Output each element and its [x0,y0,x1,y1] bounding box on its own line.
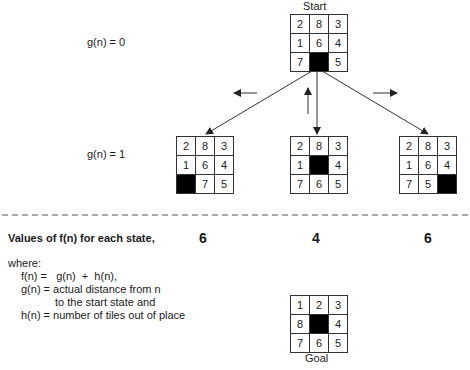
g0-label: g(n) = 0 [87,36,125,48]
tile: 5 [329,53,347,71]
tile: 2 [310,296,328,314]
tile: 3 [329,15,347,33]
tile: 5 [329,175,347,193]
where-g-def-cont: to the start state and [55,296,155,308]
blank-tile [438,175,456,193]
blank-tile [310,156,328,174]
tile: 1 [291,34,309,52]
tile: 8 [310,137,328,155]
where-g-def: g(n) = actual distance from n [21,283,161,295]
blank-tile [310,53,328,71]
tile: 5 [215,175,233,193]
tile: 2 [400,137,418,155]
tile: 6 [310,34,328,52]
right-child-grid: 2 8 3 1 6 4 7 5 [399,136,457,194]
values-heading: Values of f(n) for each state, [8,232,155,244]
left-child-grid: 2 8 3 1 6 4 7 5 [176,136,234,194]
tile: 6 [310,334,328,352]
edge-to-left-child [206,68,317,134]
tile: 5 [329,334,347,352]
g1-label: g(n) = 1 [87,148,125,160]
tile: 4 [329,156,347,174]
tile: 7 [291,53,309,71]
tile: 2 [291,137,309,155]
tile: 3 [438,137,456,155]
tile: 7 [291,334,309,352]
tile: 8 [310,15,328,33]
tile: 7 [291,175,309,193]
edge-to-right-child [317,68,428,134]
blank-tile [310,315,328,333]
tile: 3 [329,137,347,155]
f-value-left: 6 [199,230,207,246]
tile: 1 [291,156,309,174]
tile: 4 [329,34,347,52]
f-value-right: 6 [424,230,432,246]
start-state-grid: 2 8 3 1 6 4 7 5 [290,14,348,72]
tile: 6 [310,175,328,193]
tile: 6 [196,156,214,174]
tile: 7 [400,175,418,193]
goal-label: Goal [305,352,328,364]
tile: 8 [196,137,214,155]
tile: 4 [329,315,347,333]
tile: 8 [291,315,309,333]
goal-state-grid: 1 2 3 8 4 7 6 5 [290,295,348,353]
where-title: where: [8,257,41,269]
tile: 8 [419,137,437,155]
tile: 4 [438,156,456,174]
tile: 2 [291,15,309,33]
tile: 6 [419,156,437,174]
middle-child-grid: 2 8 3 1 4 7 6 5 [290,136,348,194]
tile: 7 [196,175,214,193]
tile: 2 [177,137,195,155]
blank-tile [177,175,195,193]
tile: 1 [177,156,195,174]
f-value-middle: 4 [312,230,320,246]
where-h-def: h(n) = number of tiles out of place [21,309,185,321]
tile: 3 [329,296,347,314]
tile: 5 [419,175,437,193]
tile: 1 [291,296,309,314]
tile: 4 [215,156,233,174]
start-label: Start [303,0,326,12]
tile: 3 [215,137,233,155]
where-f-def: f(n) = g(n) + h(n), [21,270,117,282]
tile: 1 [400,156,418,174]
